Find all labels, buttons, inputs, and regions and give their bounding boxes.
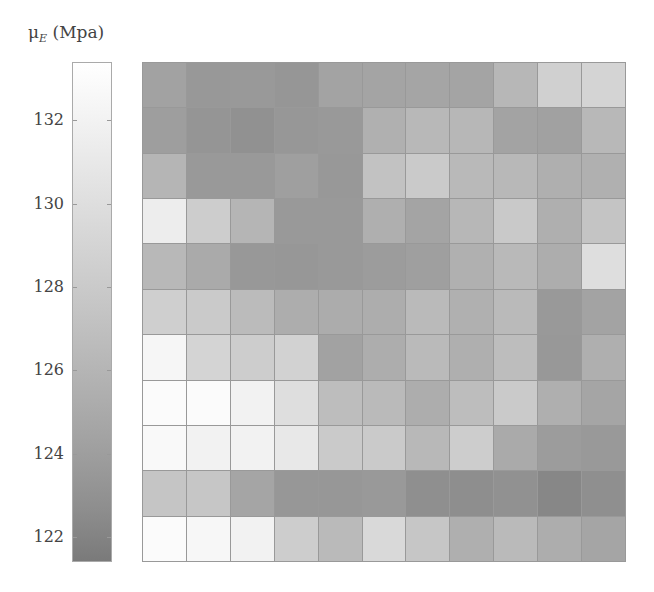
heatmap-cell (406, 335, 449, 379)
heatmap-cell (187, 471, 230, 515)
heatmap-cell (231, 108, 274, 152)
heatmap-cell (275, 199, 318, 243)
heatmap-cell (538, 244, 581, 288)
colorbar-tick-mark (107, 120, 111, 121)
heatmap-cell (231, 471, 274, 515)
colorbar-tick-mark (73, 454, 77, 455)
heatmap-cell (275, 290, 318, 334)
heatmap-cell (143, 63, 186, 107)
heatmap-cell (143, 426, 186, 470)
heatmap-cell (319, 335, 362, 379)
heatmap-cell (494, 426, 537, 470)
heatmap-cell (582, 63, 625, 107)
heatmap-cell (231, 381, 274, 425)
heatmap-cell (538, 517, 581, 561)
heatmap-cell (275, 63, 318, 107)
heatmap-cell (538, 290, 581, 334)
heatmap-cell (275, 471, 318, 515)
heatmap-cell (231, 63, 274, 107)
heatmap-cell (538, 108, 581, 152)
colorbar-tick-label: 124 (18, 446, 64, 462)
heatmap-cell (582, 290, 625, 334)
heatmap-cell (143, 471, 186, 515)
colorbar-tick-mark (73, 370, 77, 371)
colorbar-unit: (Mpa) (53, 22, 105, 42)
heatmap-cell (538, 199, 581, 243)
heatmap-cell (450, 381, 493, 425)
heatmap-cell (143, 244, 186, 288)
heatmap-cell (187, 63, 230, 107)
heatmap-cell (450, 335, 493, 379)
heatmap-cell (231, 290, 274, 334)
colorbar-tick-label: 122 (18, 529, 64, 545)
heatmap-cell (450, 108, 493, 152)
heatmap-cell (143, 290, 186, 334)
heatmap-cell (450, 426, 493, 470)
heatmap-cell (494, 290, 537, 334)
heatmap-cell (319, 63, 362, 107)
heatmap-cell (363, 63, 406, 107)
heatmap-cell (187, 199, 230, 243)
heatmap-cell (275, 244, 318, 288)
heatmap-cell (450, 290, 493, 334)
heatmap-cell (143, 199, 186, 243)
heatmap-cell (582, 108, 625, 152)
heatmap-cell (187, 426, 230, 470)
heatmap-cell (363, 517, 406, 561)
heatmap-cell (363, 154, 406, 198)
heatmap-cell (275, 108, 318, 152)
heatmap-cell (231, 426, 274, 470)
heatmap-cell (538, 426, 581, 470)
colorbar-tick-mark (107, 454, 111, 455)
heatmap-cell (363, 335, 406, 379)
heatmap-cell (143, 154, 186, 198)
heatmap-cell (143, 108, 186, 152)
heatmap-cell (406, 290, 449, 334)
heatmap-cell (538, 154, 581, 198)
heatmap-cell (363, 381, 406, 425)
heatmap-cell (450, 154, 493, 198)
heatmap-cell (319, 108, 362, 152)
heatmap-cell (143, 335, 186, 379)
heatmap-cell (406, 199, 449, 243)
colorbar-tick-mark (73, 120, 77, 121)
heatmap-cell (231, 199, 274, 243)
heatmap-cell (319, 244, 362, 288)
colorbar-subscript: E (39, 32, 47, 45)
heatmap-cell (319, 199, 362, 243)
heatmap-cell (494, 108, 537, 152)
colorbar-tick-mark (73, 287, 77, 288)
heatmap-cell (319, 154, 362, 198)
colorbar-tick-mark (107, 370, 111, 371)
heatmap-cell (319, 517, 362, 561)
heatmap-cell (494, 63, 537, 107)
colorbar-tick-mark (107, 537, 111, 538)
heatmap-cell (275, 154, 318, 198)
heatmap-cell (275, 517, 318, 561)
heatmap-cell (538, 471, 581, 515)
colorbar-tick-mark (73, 204, 77, 205)
heatmap-cell (363, 471, 406, 515)
heatmap-cell (406, 381, 449, 425)
heatmap-cell (319, 426, 362, 470)
heatmap-cell (187, 154, 230, 198)
heatmap-cell (582, 199, 625, 243)
heatmap-cell (494, 517, 537, 561)
heatmap-cell (582, 426, 625, 470)
heatmap-cell (450, 199, 493, 243)
heatmap-cell (450, 63, 493, 107)
heatmap-cell (494, 154, 537, 198)
heatmap-cell (582, 517, 625, 561)
heatmap-cell (450, 517, 493, 561)
heatmap-cell (406, 108, 449, 152)
heatmap-cell (406, 63, 449, 107)
heatmap-cell (363, 426, 406, 470)
heatmap-cell (143, 381, 186, 425)
heatmap-cell (582, 244, 625, 288)
heatmap-cell (582, 154, 625, 198)
heatmap-cell (450, 244, 493, 288)
heatmap-cell (494, 199, 537, 243)
heatmap-cell (319, 290, 362, 334)
heatmap-cell (187, 335, 230, 379)
heatmap-cell (406, 244, 449, 288)
